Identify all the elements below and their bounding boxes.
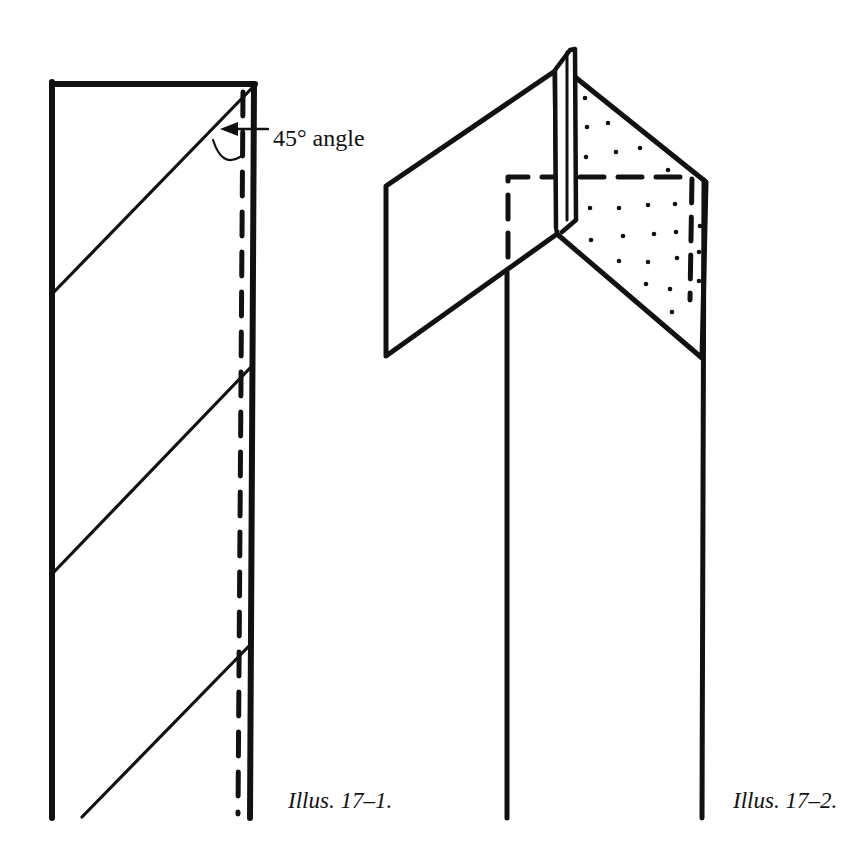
- caption-illus-17-2: Illus. 17–2.: [732, 788, 837, 813]
- caption-illus-17-1: Illus. 17–1.: [287, 788, 392, 813]
- diagonal-line-1: [53, 88, 252, 293]
- angle-label: 45° angle: [273, 125, 365, 151]
- strip-right-edge: [250, 84, 254, 818]
- seam-dashed-line: [238, 92, 243, 814]
- angle-arc: [213, 140, 240, 160]
- arrow-head-icon: [220, 122, 238, 136]
- diagonal-line-3: [82, 644, 251, 817]
- diagram-canvas: 45° angle Illus. 17–1. Illus. 17–2.: [0, 0, 856, 862]
- illus-17-2-folded-strip: [386, 49, 706, 818]
- diagonal-line-2: [53, 366, 252, 573]
- strip-right-edge-2: [702, 180, 704, 818]
- left-flap: [386, 71, 557, 356]
- illus-17-1-strip: [52, 82, 268, 818]
